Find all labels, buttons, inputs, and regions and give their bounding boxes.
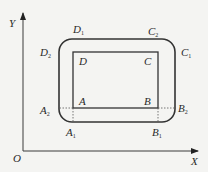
point-label-a1: A1 [65, 126, 76, 139]
point-label-a2: A2 [39, 104, 50, 117]
corner-label-a: A [78, 95, 86, 107]
offset-contour-diagram: Y X O A B C D A1 A2 B1 B2 C1 C2 D1 D2 [0, 0, 208, 172]
point-label-b2: B2 [178, 102, 188, 115]
x-axis-label: X [190, 155, 199, 167]
point-label-d2: D2 [39, 46, 51, 59]
point-label-d1: D1 [72, 23, 84, 36]
point-label-c1: C1 [181, 46, 191, 59]
corner-label-c: C [144, 55, 152, 67]
y-axis-label: Y [9, 17, 17, 29]
point-label-c2: C2 [148, 25, 158, 38]
corner-label-d: D [78, 55, 87, 67]
origin-label: O [13, 152, 21, 164]
corner-label-b: B [144, 95, 151, 107]
point-label-b1: B1 [152, 126, 162, 139]
